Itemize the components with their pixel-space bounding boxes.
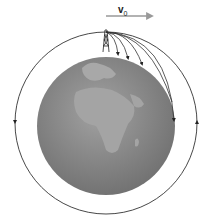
orbit-arrow-right-icon — [195, 120, 199, 124]
diagram-canvas — [0, 0, 204, 224]
orbit-arrow-left-icon — [13, 120, 17, 124]
earth-globe — [37, 57, 175, 195]
newtons-cannon-diagram: v0 — [0, 0, 204, 224]
velocity-label: v0 — [118, 4, 127, 17]
